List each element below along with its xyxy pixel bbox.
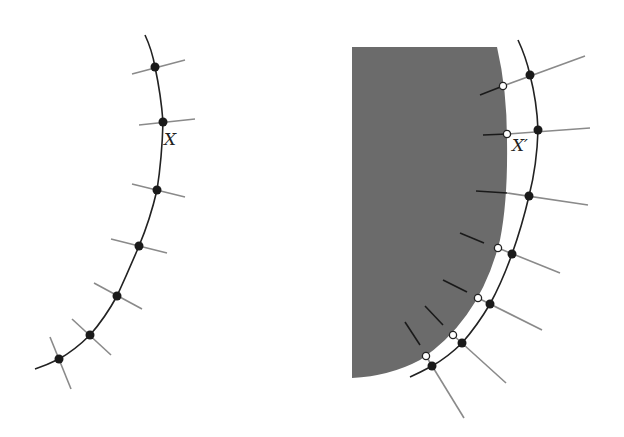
shaded-region bbox=[352, 47, 507, 378]
diagram-canvas bbox=[0, 0, 624, 437]
label-x-prime: X′ bbox=[512, 135, 528, 155]
left-panel bbox=[35, 35, 195, 389]
left-ticks bbox=[50, 60, 195, 389]
right-panel bbox=[352, 40, 590, 418]
left-curve bbox=[35, 35, 163, 369]
label-x: X bbox=[164, 129, 176, 149]
